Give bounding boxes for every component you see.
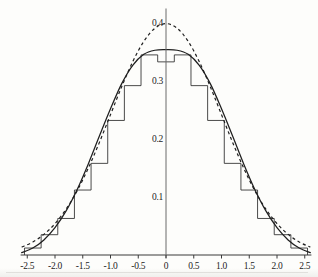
x-tick-label: 0.5 bbox=[188, 261, 199, 271]
x-tick-label: -2.5 bbox=[20, 261, 34, 271]
density-plot-figure: -2.5-2.0-1.5-1.0-0.500.51.01.52.02.5 0.1… bbox=[0, 0, 318, 277]
x-tick-label: -2.0 bbox=[48, 261, 62, 271]
x-tick-label: 2.0 bbox=[272, 261, 283, 271]
x-tick-label: 2.5 bbox=[299, 261, 310, 271]
y-tick-label: 0.3 bbox=[144, 76, 163, 86]
x-tick-label: -1.5 bbox=[76, 261, 90, 271]
y-tick-label: 0.2 bbox=[144, 134, 163, 144]
y-tick-label: 0.4 bbox=[144, 18, 163, 28]
y-tick-label: 0.1 bbox=[144, 192, 163, 202]
x-tick-label: -0.5 bbox=[131, 261, 145, 271]
x-tick-label: 1.5 bbox=[244, 261, 255, 271]
x-tick-label: 0 bbox=[164, 261, 168, 271]
x-tick-label: 1.0 bbox=[216, 261, 227, 271]
x-tick-label: -1.0 bbox=[104, 261, 118, 271]
